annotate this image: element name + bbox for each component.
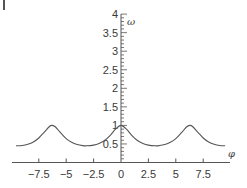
line-chart: −7.5−5−2.502.557.5 0.511.522.533.54 φ ω (0, 0, 247, 188)
x-tick-label: −5 (60, 168, 73, 180)
x-tick-label: 7.5 (196, 168, 211, 180)
x-tick-label: 5 (173, 168, 179, 180)
y-tick-label: 1.5 (103, 101, 118, 113)
x-tick-labels: −7.5−5−2.502.557.5 (28, 168, 211, 180)
x-tick-label: 0 (118, 168, 124, 180)
x-axis-label: φ (228, 148, 235, 159)
y-tick-label: 2 (112, 82, 118, 94)
y-axis-label: ω (127, 16, 135, 27)
y-tick-label: 2.5 (103, 64, 118, 76)
x-tick-label: −2.5 (83, 168, 105, 180)
x-tick-label: −7.5 (28, 168, 50, 180)
y-tick-label: 4 (112, 8, 118, 20)
y-axis (121, 14, 127, 163)
x-tick-label: 2.5 (141, 168, 156, 180)
y-tick-label: 3 (112, 45, 118, 57)
y-tick-label: 3.5 (103, 27, 118, 39)
